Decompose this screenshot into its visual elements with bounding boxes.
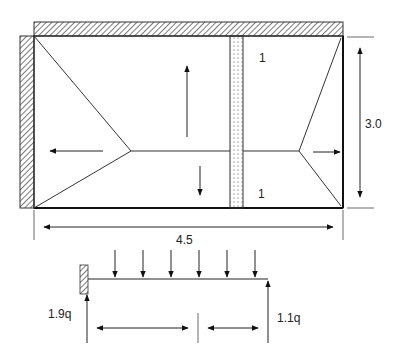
width-dimension-label: 4.5 (176, 233, 193, 247)
top-wall (34, 22, 343, 36)
panel-label-top: 1 (259, 51, 266, 65)
right-reaction-label: 1.1q (277, 311, 300, 325)
slab-diagram: 1 1 3.0 4.5 1.9q 1.1q (0, 0, 398, 360)
dotted-strip (230, 36, 243, 208)
beam-fixed-support (80, 265, 88, 294)
left-reaction-label: 1.9q (48, 307, 71, 321)
panel-label-bottom: 1 (258, 187, 265, 201)
distributed-load-arrows (115, 250, 255, 277)
height-dimension-label: 3.0 (365, 117, 382, 131)
left-wall (20, 36, 34, 208)
slab-outline (34, 36, 343, 208)
